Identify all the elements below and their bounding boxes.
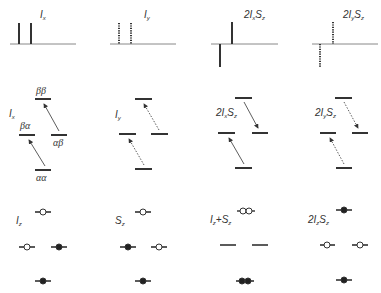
label-levels-ix: Ix: [9, 109, 15, 120]
levels-iy: [119, 99, 168, 169]
label-iy: Iy: [144, 10, 150, 21]
state-bb: ββ: [36, 86, 46, 96]
label-pop-sz: Sz: [115, 216, 125, 227]
state-ba: βα: [20, 121, 30, 131]
label-pop-iz: Iz: [16, 216, 22, 227]
levels-ix: [19, 99, 67, 170]
label-pop-2izsz: 2IzSz: [308, 215, 329, 226]
label-ix: Ix: [40, 10, 46, 21]
label-pop-iz-plus-sz: Iz+Sz: [210, 215, 231, 226]
spectrum-ix: [10, 23, 76, 44]
state-ab: αβ: [53, 138, 63, 148]
spectrum-iy: [110, 23, 176, 44]
label-levels-2ixsz: 2IxSz: [216, 108, 237, 119]
state-aa: αα: [36, 173, 47, 183]
populations-sz: [120, 209, 167, 284]
label-levels-iy: Iy: [115, 110, 121, 121]
spectrum-2iysz: [312, 22, 378, 67]
label-2iysz: 2IySz: [343, 10, 364, 21]
label-2ixsz: 2IxSz: [244, 10, 265, 21]
spectrum-2ixsz: [211, 22, 278, 67]
populations-iz: [19, 209, 67, 284]
label-levels-2iysz: 2IySz: [315, 108, 336, 119]
